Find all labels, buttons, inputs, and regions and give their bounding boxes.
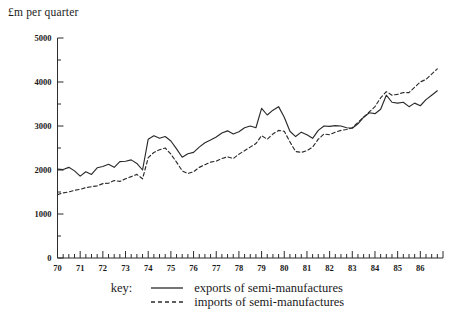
legend-swatch-dashed <box>148 295 192 309</box>
x-axis-tick-label: 84 <box>371 263 380 273</box>
x-axis-tick-label: 78 <box>235 263 244 273</box>
x-axis-tick-label: 85 <box>393 263 402 273</box>
legend-swatch-solid <box>148 281 192 295</box>
y-axis: 010002000300040005000 <box>35 33 64 263</box>
legend-spacer <box>109 295 149 309</box>
x-axis-tick-label: 77 <box>212 263 221 273</box>
x-axis-tick-label: 73 <box>121 263 130 273</box>
x-axis-tick-label: 71 <box>76 263 85 273</box>
x-axis-tick-label: 74 <box>144 263 153 273</box>
legend-row-exports: key: exports of semi-manufactures <box>109 281 347 295</box>
y-axis-tick-label: 0 <box>47 253 51 263</box>
y-axis-tick-label: 1000 <box>35 209 52 219</box>
x-axis: 7071727374757677787980818283848586 <box>53 251 443 273</box>
legend-row-imports: imports of semi-manufactures <box>109 295 347 309</box>
series-line-imports <box>58 69 438 195</box>
x-axis-tick-label: 75 <box>167 263 176 273</box>
x-axis-tick-label: 72 <box>99 263 108 273</box>
legend-label-imports: imports of semi-manufactures <box>192 295 346 309</box>
x-axis-tick-label: 83 <box>348 263 357 273</box>
x-axis-tick-label: 76 <box>189 263 198 273</box>
y-axis-tick-label: 3000 <box>35 121 52 131</box>
x-axis-tick-label: 86 <box>416 263 425 273</box>
chart-container: £m per quarter 010002000300040005000 707… <box>0 0 455 322</box>
x-axis-tick-label: 79 <box>257 263 266 273</box>
legend-key-label: key: <box>109 281 149 295</box>
x-axis-tick-label: 82 <box>325 263 334 273</box>
chart-legend: key: exports of semi-manufactures <box>0 281 455 309</box>
y-axis-tick-label: 2000 <box>35 165 52 175</box>
x-axis-tick-label: 81 <box>303 263 312 273</box>
data-series-group <box>58 69 438 195</box>
legend-label-exports: exports of semi-manufactures <box>192 281 346 295</box>
chart-plot-area: 010002000300040005000 707172737475767778… <box>0 0 455 282</box>
x-axis-tick-label: 80 <box>280 263 289 273</box>
y-axis-tick-label: 5000 <box>35 33 52 43</box>
y-axis-tick-label: 4000 <box>35 77 52 87</box>
series-line-exports <box>58 91 438 176</box>
x-axis-tick-label: 70 <box>53 263 62 273</box>
